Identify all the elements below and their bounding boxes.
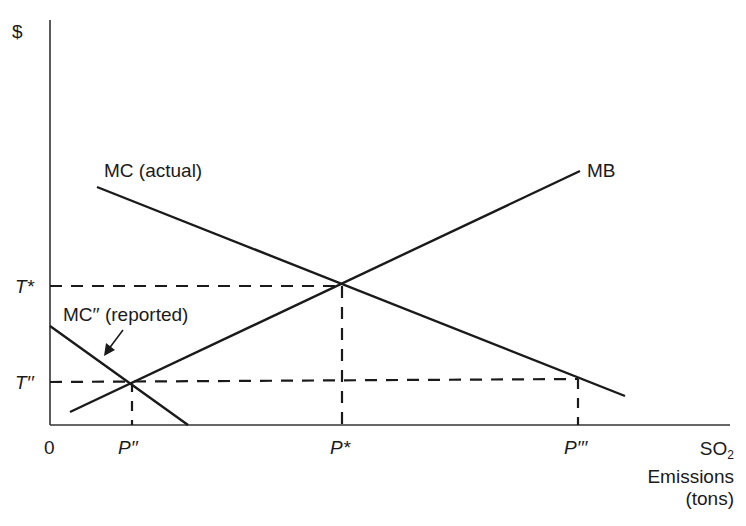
mc-actual-line [97, 187, 625, 396]
mc-actual-label: MC (actual) [104, 161, 202, 180]
origin-label: 0 [44, 438, 55, 457]
x-axis-label: SO2 Emissions (tons) [630, 438, 734, 510]
economics-diagram: $ 0 T* T′′ P′′ P* P′′′ MC (actual) MB MC… [0, 0, 746, 526]
x-axis-label-line2: Emissions [630, 466, 734, 488]
mb-label: MB [587, 161, 616, 180]
t-double-label: T′′ [15, 373, 34, 392]
mc-reported-line [50, 326, 188, 425]
x-axis-label-line3: (tons) [630, 488, 734, 510]
x-axis-label-subscript: 2 [727, 448, 734, 462]
arrow-head-icon [104, 343, 115, 356]
y-axis-label: $ [12, 22, 23, 41]
x-axis-label-main: SO [700, 438, 727, 459]
mc-reported-label: MC′′ (reported) [63, 305, 188, 324]
p-double-label: P′′ [118, 438, 138, 457]
p-triple-label: P′′′ [564, 438, 587, 457]
t-star-label: T* [15, 277, 34, 296]
x-axis-label-line1: SO2 [630, 438, 734, 466]
p-star-label: P* [330, 438, 350, 457]
